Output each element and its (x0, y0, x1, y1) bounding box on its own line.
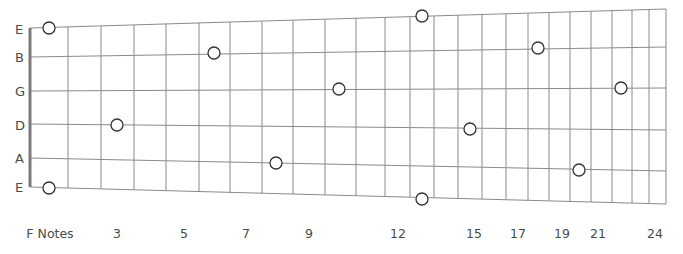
string-label-g: G (15, 84, 29, 99)
fret-label-24: 24 (647, 226, 663, 241)
note-marker-circle (208, 47, 220, 59)
note-marker-circle (464, 123, 476, 135)
note-marker-circle (333, 83, 345, 95)
string-label-high-e: E (15, 22, 29, 37)
fret-label-21: 21 (590, 226, 606, 241)
note-marker-circle (573, 164, 585, 176)
fret-label-15: 15 (466, 226, 482, 241)
note-marker-circle (416, 10, 428, 22)
diagram-title-label: F Notes (26, 226, 73, 241)
string-lines (30, 9, 666, 204)
fret-label-12: 12 (390, 226, 406, 241)
string-line-3 (30, 88, 666, 91)
fret-label-7: 7 (242, 226, 250, 241)
string-line-1 (30, 9, 666, 28)
fretboard (0, 0, 683, 254)
string-line-5 (30, 158, 666, 171)
fret-label-5: 5 (180, 226, 188, 241)
fret-label-19: 19 (554, 226, 570, 241)
string-line-2 (30, 47, 666, 57)
fret-label-3: 3 (113, 226, 121, 241)
string-label-b: B (15, 50, 29, 65)
note-marker-circle (43, 182, 55, 194)
note-marker-circle (43, 22, 55, 34)
note-marker-circle (615, 82, 627, 94)
string-line-6 (30, 187, 666, 204)
string-line-4 (30, 124, 666, 130)
note-marker-circle (416, 193, 428, 205)
fret-label-17: 17 (510, 226, 526, 241)
fret-label-9: 9 (305, 226, 313, 241)
note-markers (43, 10, 627, 205)
string-label-d: D (15, 118, 29, 133)
note-marker-circle (532, 42, 544, 54)
note-marker-circle (270, 157, 282, 169)
note-marker-circle (111, 119, 123, 131)
string-label-low-e: E (15, 180, 29, 195)
string-label-a: A (15, 151, 29, 166)
